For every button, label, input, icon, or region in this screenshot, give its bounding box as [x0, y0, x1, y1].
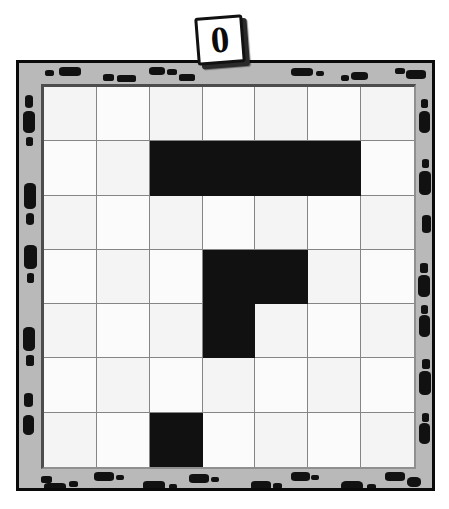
grid-cell-empty[interactable]: [203, 87, 256, 141]
frame-speckle-bottom: [94, 472, 114, 481]
frame-speckle-bottom: [407, 477, 421, 487]
frame-speckle-right: [418, 275, 430, 297]
frame-speckle-bottom: [385, 472, 405, 481]
grid-cell-empty[interactable]: [97, 87, 150, 141]
grid-cell-empty[interactable]: [255, 304, 308, 358]
grid-cell-filled[interactable]: [308, 141, 361, 195]
grid-cell-empty[interactable]: [150, 304, 203, 358]
frame-speckle-left: [25, 95, 33, 108]
grid-cell-empty[interactable]: [203, 413, 256, 467]
frame-speckle-bottom: [251, 481, 271, 488]
grid-cell-empty[interactable]: [203, 358, 256, 412]
puzzle-stage: 0: [0, 0, 449, 509]
grid-cell-filled[interactable]: [203, 141, 256, 195]
grid-cell-empty[interactable]: [150, 87, 203, 141]
grid-cell-empty[interactable]: [150, 250, 203, 304]
label-card[interactable]: 0: [194, 14, 246, 66]
grid-cell-empty[interactable]: [203, 196, 256, 250]
grid-cell-filled[interactable]: [150, 141, 203, 195]
frame-speckle-bottom: [169, 484, 177, 488]
grid-cell-empty[interactable]: [97, 141, 150, 195]
frame-speckle-top: [291, 68, 313, 76]
frame-speckle-bottom: [44, 483, 66, 488]
frame-speckle-bottom: [143, 481, 165, 488]
frame-speckle-top: [316, 71, 324, 76]
frame-speckle-top: [167, 69, 177, 75]
frame-speckle-bottom: [367, 484, 376, 488]
grid-cell-empty[interactable]: [361, 413, 414, 467]
grid-cell-filled[interactable]: [255, 250, 308, 304]
grid-cell-empty[interactable]: [361, 141, 414, 195]
frame-speckle-right: [419, 371, 431, 395]
frame-speckle-right: [422, 413, 429, 422]
grid-cell-filled[interactable]: [203, 250, 256, 304]
grid-cell-empty[interactable]: [97, 358, 150, 412]
frame-speckle-left: [26, 137, 33, 146]
frame-speckle-right: [420, 263, 428, 273]
grid-cell-empty[interactable]: [361, 196, 414, 250]
frame-speckle-top: [117, 75, 136, 82]
grid-cell-empty[interactable]: [150, 196, 203, 250]
frame-speckle-right: [421, 305, 428, 314]
frame-speckle-left: [24, 183, 36, 209]
grid-cell-empty[interactable]: [150, 358, 203, 412]
frame-speckle-top: [149, 67, 165, 75]
grid-cell-empty[interactable]: [44, 413, 97, 467]
grid-cell-filled[interactable]: [203, 304, 256, 358]
board-frame: [16, 60, 435, 491]
grid-cell-empty[interactable]: [44, 87, 97, 141]
frame-speckle-left: [23, 415, 34, 435]
frame-speckle-right: [419, 423, 430, 444]
grid-cell-empty[interactable]: [255, 413, 308, 467]
frame-speckle-top: [341, 75, 349, 81]
frame-speckle-top: [395, 68, 405, 74]
grid-cell-empty[interactable]: [361, 358, 414, 412]
label-card-container: 0: [196, 16, 252, 72]
grid-cell-empty[interactable]: [308, 87, 361, 141]
grid-cell-empty[interactable]: [44, 141, 97, 195]
grid-cell-empty[interactable]: [255, 87, 308, 141]
grid-cell-empty[interactable]: [308, 250, 361, 304]
grid-cell-empty[interactable]: [308, 304, 361, 358]
frame-speckle-top: [406, 70, 426, 79]
grid-cell-empty[interactable]: [97, 413, 150, 467]
frame-speckle-right: [422, 159, 429, 168]
grid-cell-empty[interactable]: [44, 250, 97, 304]
frame-speckle-bottom: [311, 475, 319, 480]
grid-cell-empty[interactable]: [44, 196, 97, 250]
frame-speckle-bottom: [211, 477, 219, 482]
grid-cell-empty[interactable]: [97, 196, 150, 250]
frame-speckle-right: [422, 215, 431, 233]
grid-cell-empty[interactable]: [97, 250, 150, 304]
frame-speckle-top: [351, 72, 368, 80]
frame-speckle-right: [419, 171, 431, 195]
puzzle-grid[interactable]: [44, 87, 414, 467]
grid-cell-filled[interactable]: [150, 413, 203, 467]
grid-cell-empty[interactable]: [308, 413, 361, 467]
grid-cell-empty[interactable]: [361, 304, 414, 358]
frame-speckle-top: [45, 70, 54, 76]
frame-speckle-left: [23, 327, 35, 351]
grid-cell-empty[interactable]: [308, 358, 361, 412]
frame-speckle-bottom: [273, 483, 282, 488]
grid-cell-empty[interactable]: [255, 196, 308, 250]
grid-cell-empty[interactable]: [361, 250, 414, 304]
frame-speckle-top: [59, 67, 81, 76]
frame-speckle-top: [103, 74, 114, 81]
grid-cell-filled[interactable]: [255, 141, 308, 195]
grid-cell-empty[interactable]: [308, 196, 361, 250]
frame-speckle-right: [419, 111, 430, 133]
frame-speckle-left: [24, 393, 33, 407]
frame-speckle-bottom: [291, 472, 310, 481]
frame-speckle-left: [26, 213, 34, 225]
grid-cell-empty[interactable]: [97, 304, 150, 358]
frame-speckle-right: [421, 99, 428, 108]
frame-speckle-bottom: [41, 476, 52, 483]
grid-cell-empty[interactable]: [361, 87, 414, 141]
frame-speckle-bottom: [69, 481, 78, 487]
frame-speckle-right: [419, 315, 430, 337]
grid-cell-empty[interactable]: [255, 358, 308, 412]
grid-cell-empty[interactable]: [44, 358, 97, 412]
grid-cell-empty[interactable]: [44, 304, 97, 358]
frame-speckle-top: [179, 74, 195, 81]
